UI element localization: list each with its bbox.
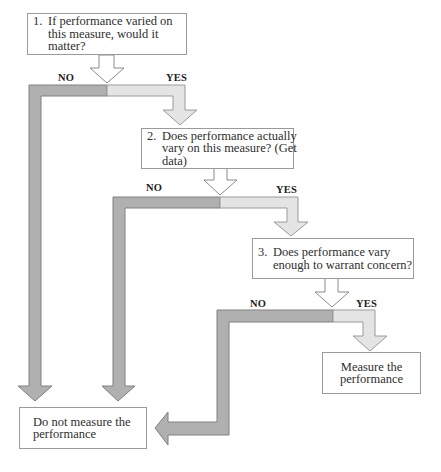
- flow-arrows: [0, 0, 441, 472]
- outcome-text-line: performance: [323, 373, 420, 386]
- down-arrow-icon: [204, 168, 237, 195]
- branch-label-yes-1: YES: [166, 72, 187, 83]
- yes-path-arrow-1: [107, 85, 197, 125]
- question-text-line: Does performance vary: [273, 246, 412, 259]
- no-path-arrow-2: [102, 197, 220, 401]
- question-text-line: If performance varied on: [48, 15, 173, 28]
- yes-path-arrow-3: [333, 310, 387, 351]
- outcome-text-line: performance: [33, 428, 146, 441]
- question-box-2: 2. Does performance actually vary on thi…: [141, 128, 294, 169]
- step-number: 1.: [33, 15, 48, 53]
- question-text-line: matter?: [48, 40, 173, 53]
- step-number: 2.: [147, 130, 162, 168]
- branch-label-no-3: NO: [250, 298, 266, 309]
- down-arrow-icon: [315, 278, 349, 307]
- question-text-line: data): [162, 155, 297, 168]
- outcome-do-not-measure-box: Do not measure the performance: [19, 407, 147, 449]
- branch-label-yes-2: YES: [276, 184, 297, 195]
- question-text-line: vary on this measure? (Get: [162, 142, 297, 155]
- yes-path-arrow-2: [220, 197, 308, 236]
- no-path-arrow-1: [18, 85, 107, 401]
- question-box-3: 3. Does performance vary enough to warra…: [252, 238, 414, 279]
- question-box-1: 1. If performance varied on this measure…: [27, 13, 187, 55]
- branch-label-no-2: NO: [146, 182, 162, 193]
- branch-label-yes-3: YES: [356, 298, 377, 309]
- question-text-line: enough to warrant concern?: [273, 259, 412, 272]
- no-path-arrow-3: [155, 310, 333, 445]
- down-arrow-icon: [90, 55, 124, 83]
- branch-label-no-1: NO: [58, 72, 74, 83]
- step-number: 3.: [258, 246, 273, 271]
- outcome-measure-box: Measure the performance: [322, 352, 421, 394]
